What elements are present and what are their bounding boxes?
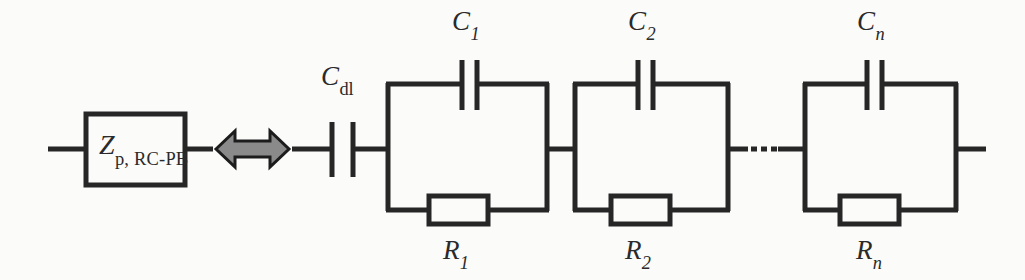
cdl-label: Cdl xyxy=(321,63,353,95)
rc-block-n-resistor-label: Rn xyxy=(856,237,882,269)
rc-block-1-resistor-box xyxy=(429,196,488,224)
rc-block-n-capacitor-label: Cn xyxy=(857,8,884,40)
r2-symbol: R xyxy=(625,235,642,265)
rc-block-n-resistor-box xyxy=(840,196,899,224)
cn-symbol: C xyxy=(857,6,875,36)
circuit-diagram: Zp, RC-PB Cdl C1 R1 C2 R2 Cn Rn xyxy=(0,0,1025,280)
rc-block-1-resistor-label: R1 xyxy=(443,237,469,269)
rn-symbol: R xyxy=(856,235,873,265)
equivalence-double-arrow-icon xyxy=(216,131,289,167)
c1-subscript: 1 xyxy=(470,24,479,44)
c2-subscript: 2 xyxy=(646,24,655,44)
r1-symbol: R xyxy=(443,235,460,265)
cn-subscript: n xyxy=(875,24,884,44)
rc-block-1-capacitor-label: C1 xyxy=(452,8,479,40)
impedance-block-label: Zp, RC-PB xyxy=(99,131,188,164)
cdl-symbol: C xyxy=(321,61,339,91)
cdl-subscript: dl xyxy=(339,79,353,99)
rc-block-2-capacitor-label: C2 xyxy=(628,8,655,40)
r1-subscript: 1 xyxy=(460,253,469,273)
rn-subscript: n xyxy=(873,253,882,273)
rc-block-2-resistor-box xyxy=(611,196,670,224)
rc-block-2-resistor-label: R2 xyxy=(625,237,651,269)
impedance-subscript: p, RC-PB xyxy=(115,149,188,169)
c2-symbol: C xyxy=(628,6,646,36)
c1-symbol: C xyxy=(452,6,470,36)
ellipsis-dots xyxy=(751,147,777,152)
r2-subscript: 2 xyxy=(642,253,651,273)
impedance-symbol: Z xyxy=(99,129,115,160)
